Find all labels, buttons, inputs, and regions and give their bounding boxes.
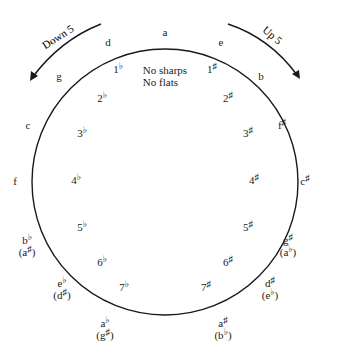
down-label: Down 5 xyxy=(40,22,76,51)
center-label: No sharps No flats xyxy=(143,64,187,88)
flat-count-7: 7♭ xyxy=(119,282,129,293)
sharp-key-1: e xyxy=(219,37,224,48)
up-label: Up 5 xyxy=(260,23,285,46)
sharp-key-4: c♯ xyxy=(300,176,309,187)
sharp-key-3: f♯ xyxy=(278,120,286,131)
top-key-label: a xyxy=(163,27,168,38)
sharp-key-6: d♯(e♭) xyxy=(262,278,278,301)
sharp-count-3: 3♯ xyxy=(243,128,253,139)
flat-count-5: 5♭ xyxy=(77,222,87,233)
sharp-key-2: b xyxy=(258,71,264,82)
flat-count-2: 2♭ xyxy=(97,93,107,104)
sharp-count-1: 1♯ xyxy=(207,64,217,75)
sharp-count-6: 6♯ xyxy=(223,257,233,268)
no-sharps-text: No sharps xyxy=(143,64,187,76)
flat-key-7: a♭(g♯) xyxy=(96,318,113,341)
up-arrowhead-icon xyxy=(292,70,300,79)
circle-diagram: Down 5 Up 5 xyxy=(0,0,338,354)
no-flats-text: No flats xyxy=(143,76,187,88)
sharp-count-2: 2♯ xyxy=(223,93,233,104)
sharp-count-7: 7♯ xyxy=(201,282,211,293)
sharp-count-4: 4♯ xyxy=(249,175,259,186)
flat-count-3: 3♭ xyxy=(77,128,87,139)
flat-key-1: d xyxy=(105,37,111,48)
flat-count-6: 6♭ xyxy=(97,257,107,268)
flat-count-4: 4♭ xyxy=(71,175,81,186)
sharp-key-7: a♯(b♭) xyxy=(214,318,231,341)
flat-key-4: f xyxy=(13,176,17,187)
flat-count-1: 1♭ xyxy=(113,64,123,75)
sharp-count-5: 5♯ xyxy=(243,222,253,233)
flat-key-2: g xyxy=(56,71,62,82)
flat-key-5: b♭(a♯) xyxy=(19,235,36,258)
flat-key-6: e♭(d♯) xyxy=(53,278,70,301)
sharp-key-5: g♯(a♭) xyxy=(280,235,296,258)
flat-key-3: c xyxy=(26,120,31,131)
